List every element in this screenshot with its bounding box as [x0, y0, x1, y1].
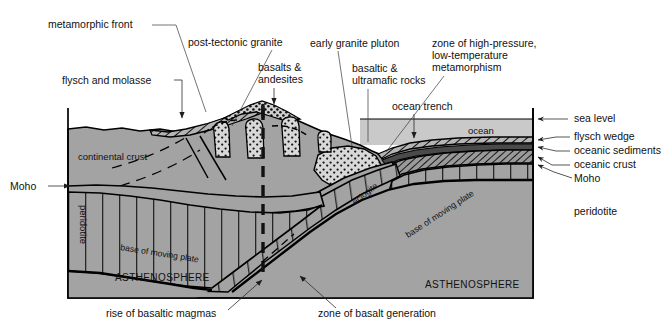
callout-flysch-and-molasse: flysch and molasse — [62, 74, 151, 86]
callout-hp-lt-line2: low-temperature — [432, 49, 508, 61]
callout-basaltic-ultramafic-line1: basaltic & — [352, 62, 398, 74]
label-asthenosphere-left: ASTHENOSPHERE — [115, 272, 210, 283]
label-ocean-water: ocean — [468, 125, 494, 136]
callout-early-granite-pluton: early granite pluton — [310, 37, 399, 49]
callout-hp-lt-line1: zone of high-pressure, — [432, 37, 536, 49]
subduction-zone-cross-section-figure: continental crust ocean peridotite eclog… — [0, 0, 666, 334]
post-tectonic-granite-pluton-3 — [282, 117, 300, 156]
callout-ocean-trench: ocean trench — [392, 100, 453, 112]
post-tectonic-granite-pluton-1 — [214, 122, 230, 157]
callout-oceanic-crust: oceanic crust — [574, 158, 636, 170]
callout-peridotite-right: peridotite — [574, 205, 617, 217]
label-peridotite-left: peridotite — [78, 205, 89, 244]
label-asthenosphere-right: ASTHENOSPHERE — [425, 279, 520, 290]
cross-section-svg: continental crust ocean peridotite eclog… — [0, 0, 666, 334]
callout-flysch-wedge: flysch wedge — [574, 130, 635, 142]
post-tectonic-granite-pluton-4 — [318, 131, 331, 152]
callout-post-tectonic-granite: post-tectonic granite — [188, 36, 283, 48]
callout-hp-lt-line3: metamorphism — [432, 61, 502, 73]
callout-basaltic-ultramafic-line2: ultramafic rocks — [352, 74, 426, 86]
callout-basalts-andesites-line2: andesites — [258, 73, 303, 85]
callout-sea-level: sea level — [574, 112, 615, 124]
callout-moho-left: Moho — [10, 180, 36, 192]
callout-metamorphic-front: metamorphic front — [48, 18, 133, 30]
callout-moho-right: Moho — [574, 172, 600, 184]
callout-zone-of-basalt-generation: zone of basalt generation — [318, 307, 436, 319]
label-continental-crust: continental crust — [78, 151, 148, 162]
callout-oceanic-sediments: oceanic sediments — [574, 144, 661, 156]
callout-basalts-andesites-line1: basalts & — [258, 61, 301, 73]
post-tectonic-granite-pluton-2 — [246, 119, 264, 158]
callout-rise-of-basaltic-magmas: rise of basaltic magmas — [106, 307, 216, 319]
